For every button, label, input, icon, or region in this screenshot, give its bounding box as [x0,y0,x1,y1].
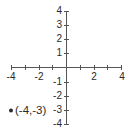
y-tick-label: -3 [48,105,62,115]
y-tick-label: 3 [48,20,62,30]
y-tick-label: 2 [48,34,62,44]
y-tick-label: -2 [48,91,62,101]
point-label: (-4,-3) [15,104,46,116]
x-tick-label: -4 [3,72,19,82]
y-tick-label: 4 [48,6,62,16]
y-tick-label: -1 [48,77,62,87]
y-tick-label: 1 [48,48,62,58]
y-tick-label: -4 [48,119,62,129]
x-tick-label: 2 [86,72,102,82]
data-point [9,109,13,113]
x-tick-label: -2 [31,72,47,82]
x-tick-label: 4 [114,72,130,82]
